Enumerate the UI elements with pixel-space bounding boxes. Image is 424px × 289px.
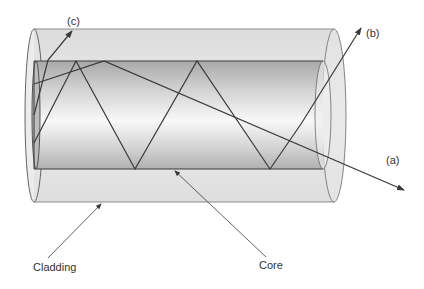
label-ray-b: (b) — [366, 28, 379, 39]
cladding-pointer — [48, 204, 101, 258]
label-ray-c: (c) — [67, 16, 80, 27]
label-cladding: Cladding — [33, 262, 76, 273]
optical-fiber-diagram — [0, 0, 424, 289]
label-core: Core — [259, 260, 283, 271]
label-ray-a: (a) — [386, 155, 399, 166]
core — [32, 61, 331, 169]
